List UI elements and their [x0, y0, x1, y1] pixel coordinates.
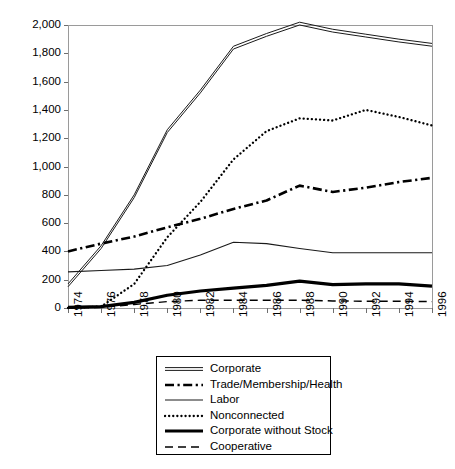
x-axis-tick-label: 1978 — [139, 291, 151, 317]
y-axis-tick-label: 1,200 — [32, 132, 61, 144]
chart-legend: CorporateTrade/Membership/HealthLaborNon… — [156, 356, 331, 455]
legend-item: Cooperative — [157, 439, 330, 455]
legend-item: Labor — [157, 392, 330, 408]
dashed-swatch — [164, 440, 204, 454]
y-axis-tick-label: 1,400 — [32, 104, 61, 116]
series-line — [68, 110, 432, 308]
x-axis-tick-label: 1990 — [338, 291, 350, 317]
y-axis-tick-label: 0 — [55, 302, 61, 314]
legend-item: Corporate without Stock — [157, 423, 330, 439]
series-corporate — [68, 22, 432, 287]
plot-border — [69, 26, 433, 309]
y-axis-tick-label: 200 — [42, 274, 61, 286]
x-axis-tick-label: 1986 — [272, 291, 284, 317]
legend-item: Corporate — [157, 361, 330, 377]
data-series-group — [68, 22, 432, 308]
x-axis-tick-label: 1996 — [437, 291, 449, 317]
y-axis-tick-label: 800 — [42, 189, 61, 201]
x-axis-tick-label: 1988 — [305, 291, 317, 317]
legend-line-sample — [164, 393, 204, 407]
thin-solid-swatch — [164, 393, 204, 407]
y-axis-tick-label: 1,000 — [32, 161, 61, 173]
y-axis-tick-label: 600 — [42, 217, 61, 229]
legend-item: Trade/Membership/Health — [157, 377, 330, 393]
y-axis-tick-label: 1,800 — [32, 47, 61, 59]
plot-frame — [69, 26, 433, 309]
x-axis-tick-label: 1982 — [205, 291, 217, 317]
line-chart: 02004006008001,0001,2001,4001,6001,8002,… — [0, 0, 455, 469]
legend-line-sample — [164, 440, 204, 454]
series-line — [68, 25, 432, 287]
x-axis-tick-label: 1976 — [106, 291, 118, 317]
x-axis-tick-label: 1980 — [172, 291, 184, 317]
dotted-swatch — [164, 409, 204, 423]
series-line — [68, 242, 432, 272]
x-axis-tick-label: 1974 — [73, 291, 85, 317]
legend-item-label: Cooperative — [210, 441, 272, 453]
x-axis-tick-label: 1994 — [404, 291, 416, 317]
x-axis-tick-label: 1984 — [238, 291, 250, 317]
legend-line-sample — [164, 362, 204, 376]
series-nonconnected — [68, 110, 432, 308]
x-axis-tick-label: 1992 — [371, 291, 383, 317]
y-axis-tick-label: 400 — [42, 245, 61, 257]
legend-item: Nonconnected — [157, 408, 330, 424]
series-labor — [68, 242, 432, 272]
legend-item-label: Labor — [210, 394, 239, 406]
legend-line-sample — [164, 409, 204, 423]
legend-item-label: Trade/Membership/Health — [210, 379, 343, 391]
y-axis-tick-label: 2,000 — [32, 19, 61, 31]
legend-item-label: Nonconnected — [210, 410, 284, 422]
y-axis-tick-label: 1,600 — [32, 76, 61, 88]
series-line — [68, 22, 432, 284]
double-solid-swatch — [164, 362, 204, 376]
legend-line-sample — [164, 378, 204, 392]
thick-solid-swatch — [164, 424, 204, 438]
legend-item-label: Corporate without Stock — [210, 425, 333, 437]
legend-item-label: Corporate — [210, 363, 261, 375]
legend-line-sample — [164, 424, 204, 438]
dash-dot-swatch — [164, 378, 204, 392]
